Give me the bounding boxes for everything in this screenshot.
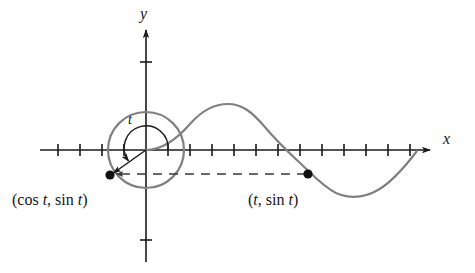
circle-point-label: (cos t, sin t): [12, 191, 88, 209]
angle-label: t: [128, 112, 132, 128]
radius-vector: [114, 150, 147, 173]
parametric-sine-circle-figure: x y t (cos t, sin t) (t, sin t): [0, 0, 475, 273]
curve-point-label: (t, sin t): [248, 191, 298, 209]
y-axis-label: y: [140, 5, 147, 23]
circle-point-dot: [105, 170, 114, 179]
y-axis: [140, 30, 152, 262]
curve-point-dot: [303, 169, 312, 178]
diagram-canvas: [0, 0, 475, 273]
x-axis: [40, 144, 430, 156]
x-axis-label: x: [443, 130, 450, 148]
